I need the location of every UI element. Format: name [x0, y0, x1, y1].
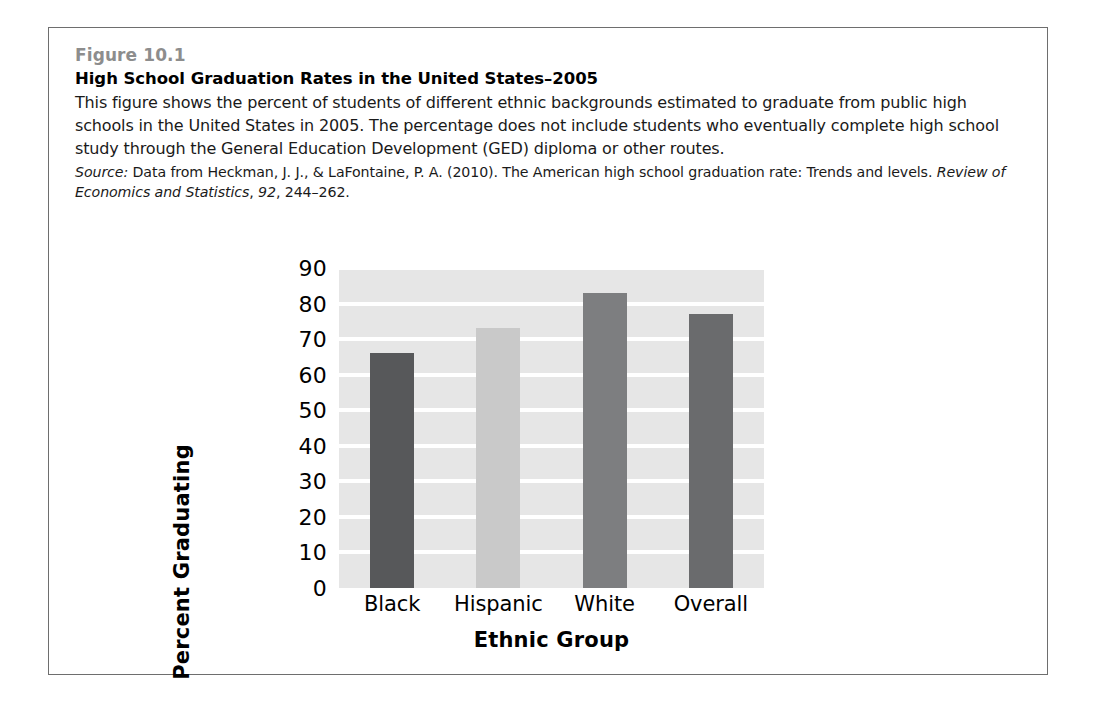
y-tick-label: 20	[281, 504, 327, 529]
y-tick-label: 0	[281, 576, 327, 601]
figure-panel: Figure 10.1 High School Graduation Rates…	[48, 27, 1048, 675]
plot-area	[339, 268, 764, 588]
y-axis-title: Percent Graduating	[170, 402, 194, 717]
bar-series	[339, 268, 764, 588]
bar-chart: Percent Graduating 0102030405060708090 B…	[49, 250, 1049, 660]
source-text-part1: Data from Heckman, J. J., & LaFontaine, …	[128, 164, 937, 180]
x-tick-label: White	[552, 592, 658, 616]
figure-number: Figure 10.1	[75, 44, 1023, 67]
figure-description: This figure shows the percent of student…	[75, 92, 1023, 160]
y-tick-label: 60	[281, 362, 327, 387]
y-tick-label: 40	[281, 433, 327, 458]
figure-source: Source: Data from Heckman, J. J., & LaFo…	[75, 163, 1023, 203]
x-tick-label: Hispanic	[445, 592, 551, 616]
x-axis-title: Ethnic Group	[339, 628, 764, 652]
y-tick-label: 80	[281, 291, 327, 316]
y-axis-ticks: 0102030405060708090	[281, 268, 327, 588]
source-volume: 92	[258, 184, 276, 200]
source-pages: , 244–262.	[276, 184, 350, 200]
figure-caption-block: Figure 10.1 High School Graduation Rates…	[75, 44, 1023, 203]
x-tick-label: Overall	[658, 592, 764, 616]
source-label: Source:	[75, 164, 128, 180]
y-tick-label: 90	[281, 256, 327, 281]
bar-black	[370, 353, 414, 588]
y-tick-label: 50	[281, 398, 327, 423]
bar-white	[583, 293, 627, 588]
source-separator: ,	[249, 184, 258, 200]
x-axis-tick-labels: BlackHispanicWhiteOverall	[339, 592, 764, 616]
figure-title: High School Graduation Rates in the Unit…	[75, 68, 1023, 90]
y-tick-label: 10	[281, 540, 327, 565]
y-tick-label: 70	[281, 327, 327, 352]
bar-hispanic	[476, 328, 520, 588]
bar-overall	[689, 314, 733, 588]
x-tick-label: Black	[339, 592, 445, 616]
y-tick-label: 30	[281, 469, 327, 494]
